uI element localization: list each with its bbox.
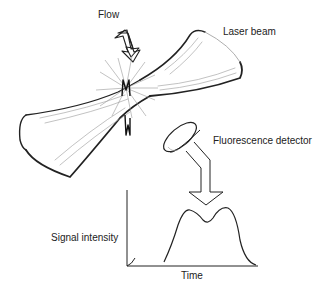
laser-beam-label: Laser beam <box>223 26 276 37</box>
flow-label: Flow <box>98 9 119 20</box>
time-label: Time <box>181 270 203 281</box>
diagram-canvas <box>0 0 328 295</box>
flow-arrow-icon <box>115 30 140 62</box>
laser-beam-shape <box>20 31 242 177</box>
signal-intensity-label: Signal intensity <box>51 232 118 243</box>
detector-icon <box>159 117 223 205</box>
fluorescence-detector-label: Fluorescence detector <box>213 135 312 146</box>
signal-chart <box>127 190 258 266</box>
